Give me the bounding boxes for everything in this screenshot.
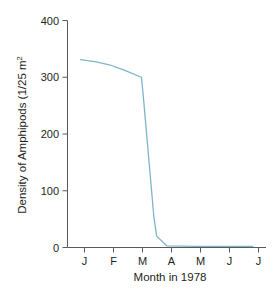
x-axis-title: Month in 1978 <box>134 271 207 283</box>
y-tick-label-200: 200 <box>41 128 59 140</box>
line-chart: 400 300 200 100 0 J F M A M J J Month in… <box>0 0 274 289</box>
data-series-line <box>80 60 253 247</box>
x-tick-label-may: M <box>196 255 205 267</box>
svg-text:Density of Amphipods (1/25 m2: Density of Amphipods (1/25 m2 <box>15 56 28 214</box>
x-tick-label-jul: J <box>256 255 262 267</box>
y-tick-label-300: 300 <box>41 71 59 83</box>
x-tick-label-feb: F <box>110 255 117 267</box>
y-axis-title: Density of Amphipods (1/25 m2 <box>15 56 28 214</box>
x-tick-label-mar: M <box>138 255 147 267</box>
y-tick-label-100: 100 <box>41 185 59 197</box>
y-axis-title-superscript: 2 <box>15 56 24 60</box>
x-tick-label-jun: J <box>227 255 233 267</box>
y-axis-title-text: Density of Amphipods (1/25 m <box>16 60 28 213</box>
chart-figure: 400 300 200 100 0 J F M A M J J Month in… <box>0 0 274 289</box>
x-tick-label-apr: A <box>168 255 176 267</box>
y-tick-label-400: 400 <box>41 15 59 27</box>
x-tick-label-jan: J <box>82 255 88 267</box>
y-tick-marks <box>63 21 68 248</box>
y-tick-label-0: 0 <box>53 242 59 254</box>
x-tick-marks <box>85 248 259 253</box>
